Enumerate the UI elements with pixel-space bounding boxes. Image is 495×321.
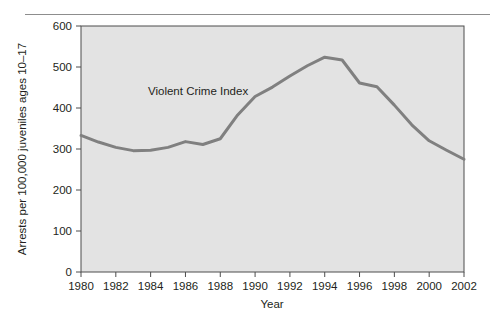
y-axis: 0100200300400500600 (53, 20, 81, 278)
x-axis-tick-label: 1986 (173, 280, 199, 292)
y-axis-tick-label: 300 (53, 143, 72, 155)
x-axis-tick-label: 1982 (103, 280, 129, 292)
x-axis-tick-label: 1988 (207, 280, 233, 292)
violent-crime-index-line-chart: 0100200300400500600 19801982198419861988… (0, 0, 495, 321)
x-axis: 1980198219841986198819901992199419961998… (68, 272, 477, 292)
x-axis-tick-label: 1998 (382, 280, 408, 292)
x-axis-tick-label: 1990 (242, 280, 268, 292)
x-axis-tick-label: 1980 (68, 280, 94, 292)
x-axis-tick-label: 1992 (277, 280, 303, 292)
series-annotation-violent-crime-index: Violent Crime Index (148, 85, 248, 97)
y-axis-tick-label: 600 (53, 20, 72, 32)
y-axis-tick-label: 500 (53, 61, 72, 73)
x-axis-tick-label: 1984 (138, 280, 164, 292)
x-axis-tick-label: 2000 (416, 280, 442, 292)
y-axis-title: Arrests per 100,000 juveniles ages 10–17 (16, 43, 28, 255)
x-axis-tick-label: 2002 (451, 280, 477, 292)
x-axis-title: Year (260, 298, 283, 310)
plot-area-background (81, 26, 464, 272)
x-axis-tick-label: 1994 (312, 280, 338, 292)
figure-container: 0100200300400500600 19801982198419861988… (0, 0, 495, 321)
y-axis-tick-label: 200 (53, 184, 72, 196)
y-axis-tick-label: 0 (66, 266, 72, 278)
x-axis-tick-label: 1996 (347, 280, 373, 292)
y-axis-tick-label: 100 (53, 225, 72, 237)
y-axis-tick-label: 400 (53, 102, 72, 114)
